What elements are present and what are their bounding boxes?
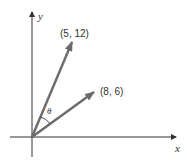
vector-angle-diagram: y x (5, 12) (8, 6) θ [0, 0, 187, 163]
angle-theta-label: θ [47, 106, 52, 116]
vector-5-12-label: (5, 12) [60, 28, 89, 39]
y-axis-label: y [37, 10, 43, 22]
angle-arc [41, 117, 51, 124]
x-axis-label: x [174, 142, 180, 154]
vector-8-6-label: (8, 6) [100, 86, 123, 97]
